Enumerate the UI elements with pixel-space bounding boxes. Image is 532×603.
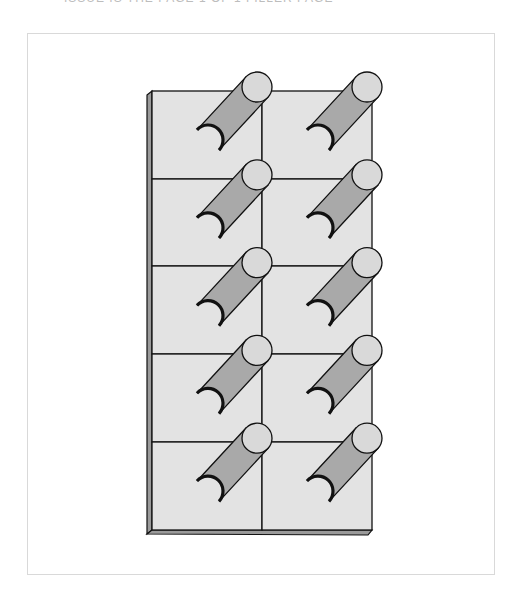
peg-cap xyxy=(352,423,382,453)
block-base-strip xyxy=(147,530,372,535)
peg-cap xyxy=(242,335,272,365)
peg-block-diagram xyxy=(0,0,532,603)
block-side-panel xyxy=(147,91,152,534)
peg-cap xyxy=(242,423,272,453)
peg-cap xyxy=(242,160,272,190)
peg-cap xyxy=(352,160,382,190)
peg-cap xyxy=(242,248,272,278)
peg-cap xyxy=(242,72,272,102)
peg-cap xyxy=(352,335,382,365)
peg-cap xyxy=(352,72,382,102)
peg-cap xyxy=(352,248,382,278)
